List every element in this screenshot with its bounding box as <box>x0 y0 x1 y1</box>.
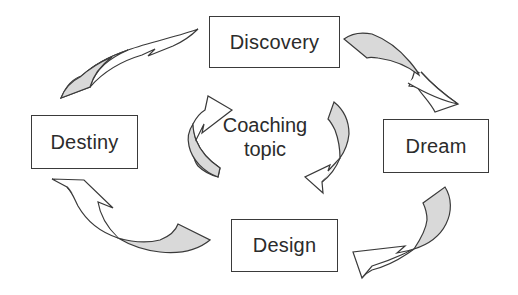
arrow-discovery-to-dream-icon <box>344 33 458 112</box>
arrow-dream-to-design-icon <box>353 187 450 278</box>
stage-box-design: Design <box>231 219 338 272</box>
stage-label-design: Design <box>253 234 316 257</box>
stage-label-dream: Dream <box>405 135 466 158</box>
center-label-line1: Coaching <box>222 113 308 137</box>
stage-box-dream: Dream <box>383 119 489 173</box>
stage-label-destiny: Destiny <box>50 131 118 154</box>
appreciative-inquiry-cycle-diagram: Discovery Dream Design Destiny Coaching … <box>0 0 518 295</box>
arrow-destiny-to-discovery-icon <box>61 29 198 98</box>
center-label-line2: topic <box>222 137 308 161</box>
stage-box-destiny: Destiny <box>31 115 138 169</box>
inner-arrow-right-icon <box>305 102 349 193</box>
stage-label-discovery: Discovery <box>230 31 320 54</box>
stage-box-discovery: Discovery <box>209 16 340 68</box>
arrow-design-to-destiny-icon <box>52 179 210 253</box>
center-topic-label: Coaching topic <box>222 113 308 161</box>
